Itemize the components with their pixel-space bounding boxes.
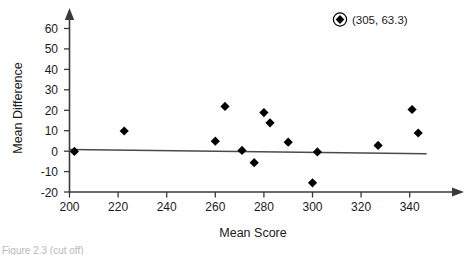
x-tick-label-240: 240: [157, 200, 177, 214]
y-tick-label-30: 30: [45, 83, 59, 97]
data-point: [308, 178, 317, 187]
data-point: [237, 146, 246, 155]
x-axis-title: Mean Score: [219, 226, 286, 240]
y-tick-label-0: 0: [51, 145, 58, 159]
x-axis-arrowhead: [452, 187, 464, 196]
y-tick-label--10: -10: [41, 165, 59, 179]
data-point: [70, 147, 79, 156]
x-tick-label-280: 280: [254, 200, 274, 214]
x-tick-label-300: 300: [302, 200, 322, 214]
chart-canvas: 60 50 40 30 20 10 0 -10 -20 200 220 240 …: [0, 0, 475, 255]
data-point: [120, 126, 129, 135]
legend-diamond-icon: [336, 15, 345, 24]
reference-trend-line: [70, 150, 427, 154]
figure-caption: Figure 2.3 (cut off): [2, 245, 84, 255]
data-point: [259, 108, 268, 117]
data-point: [211, 137, 220, 146]
y-axis-arrowhead: [65, 8, 74, 20]
y-axis-title: Mean Difference: [11, 62, 25, 154]
data-point: [414, 128, 423, 137]
x-tick-label-320: 320: [351, 200, 371, 214]
x-axis-tick-labels: 200 220 240 260 280 300 320 340: [59, 200, 420, 214]
y-axis-ticks: [64, 29, 70, 193]
data-point: [265, 118, 274, 127]
y-tick-label-20: 20: [45, 104, 59, 118]
x-tick-label-260: 260: [205, 200, 225, 214]
y-tick-label-10: 10: [45, 124, 59, 138]
legend-label: (305, 63.3): [352, 14, 408, 26]
data-point: [284, 138, 293, 147]
data-point: [408, 105, 417, 114]
x-tick-label-340: 340: [400, 200, 420, 214]
scatter-chart: 60 50 40 30 20 10 0 -10 -20 200 220 240 …: [0, 0, 475, 255]
x-tick-label-200: 200: [59, 200, 79, 214]
y-tick-label-50: 50: [45, 42, 59, 56]
data-point: [250, 158, 259, 167]
y-tick-label--20: -20: [41, 186, 59, 200]
y-axis: [65, 8, 74, 192]
data-point: [313, 147, 322, 156]
x-axis: [70, 187, 465, 196]
y-axis-tick-labels: 60 50 40 30 20 10 0 -10 -20: [41, 22, 59, 200]
x-axis-ticks: [70, 192, 410, 198]
data-point: [374, 141, 383, 150]
y-tick-label-60: 60: [45, 22, 59, 36]
x-tick-label-220: 220: [108, 200, 128, 214]
legend[interactable]: (305, 63.3): [333, 13, 407, 26]
data-points: [70, 102, 423, 188]
figure-caption-text: Figure 2.3 (cut off): [2, 245, 84, 255]
data-point: [220, 102, 229, 111]
y-tick-label-40: 40: [45, 63, 59, 77]
